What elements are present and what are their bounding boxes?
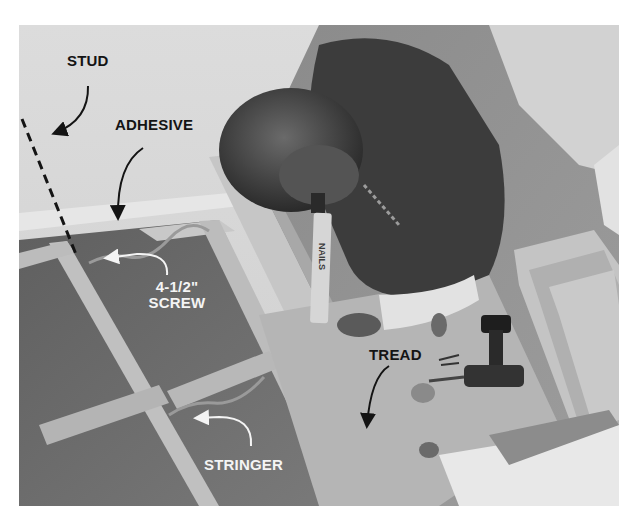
- drill-body: [464, 365, 524, 387]
- label-screw-size: 4-1/2": [147, 279, 207, 295]
- caulk-tube-text: NAILS: [317, 243, 327, 270]
- label-stud: STUD: [67, 53, 109, 69]
- label-screw-word: SCREW: [147, 295, 207, 311]
- man-hand: [337, 313, 381, 337]
- label-screw: 4-1/2" SCREW: [147, 279, 207, 311]
- caulk-gun-nozzle: [311, 193, 325, 213]
- label-tread: TREAD: [369, 347, 422, 363]
- debris-3: [419, 442, 439, 458]
- label-stringer: STRINGER: [204, 457, 283, 473]
- debris-2: [411, 383, 435, 403]
- stair-construction-photo: NAILS STUD ADHE: [19, 25, 619, 506]
- label-adhesive: ADHESIVE: [115, 117, 193, 133]
- photo-scene: NAILS: [19, 25, 619, 506]
- drill-handle: [489, 330, 503, 370]
- debris-1: [431, 313, 447, 337]
